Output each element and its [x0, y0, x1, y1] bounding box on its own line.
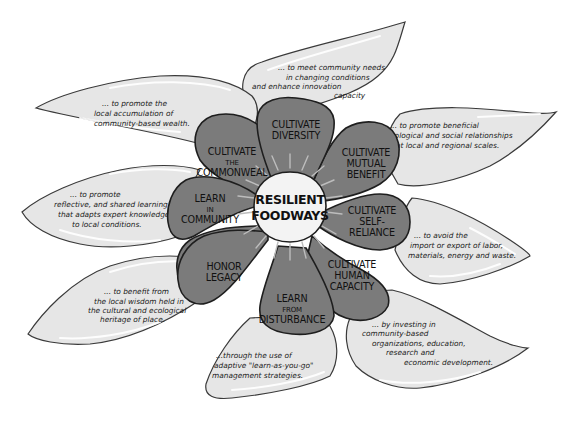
petal-disturbance-line-2: FROM — [282, 306, 302, 314]
petal-label-mutual-benefit: CULTIVATE MUTUAL BENEFIT — [342, 147, 390, 180]
petal-diversity-line-1: CULTIVATE — [272, 119, 320, 130]
petal-human-capacity-line-1: CULTIVATE — [328, 259, 376, 270]
leaf-legacy-line-4: heritage of place. — [100, 315, 165, 324]
leaf-legacy-line-2: the local wisdom held in — [94, 297, 184, 306]
petal-legacy-line-2: LEGACY — [206, 272, 243, 283]
petal-community-line-1: LEARN — [195, 193, 226, 204]
petal-label-legacy: HONOR LEGACY — [206, 261, 243, 283]
leaf-diversity-line-3: and enhance innovation — [252, 82, 342, 91]
leaf-human-capacity-line-4: research and — [386, 348, 435, 357]
leaf-disturbance-line-3: management strategies. — [212, 371, 303, 380]
center-circle: RESILIENT FOODWAYS — [251, 172, 329, 242]
leaf-human-capacity-line-5: economic development. — [404, 358, 493, 367]
petal-disturbance-line-1: LEARN — [277, 293, 308, 304]
petal-label-human-capacity: CULTIVATE HUMAN CAPACITY — [328, 259, 376, 292]
petal-commonweal-line-2: THE — [224, 159, 238, 167]
petal-commonweal-line-3: COMMONWEAL — [197, 167, 269, 178]
leaf-diversity-line-1: ... to meet community needs — [278, 63, 385, 72]
petal-commonweal-line-1: CULTIVATE — [208, 146, 256, 157]
petal-human-capacity-line-2: HUMAN — [334, 270, 369, 281]
petal-diversity-line-2: DIVERSITY — [272, 130, 321, 141]
petal-human-capacity-line-3: CAPACITY — [330, 281, 375, 292]
petal-legacy-line-1: HONOR — [206, 261, 242, 272]
petal-self-reliance-line-3: RELIANCE — [349, 227, 395, 238]
leaf-disturbance-line-2: adaptive "learn-as-you-go" — [214, 361, 314, 370]
petal-self-reliance-line-2: SELF- — [359, 216, 384, 227]
leaf-legacy-line-1: ... to benefit from — [104, 287, 169, 296]
leaf-disturbance-line-1: ...through the use of — [216, 351, 293, 360]
center-title-line-2: FOODWAYS — [251, 208, 329, 223]
leaf-commonweal-line-2: local accumulation of — [94, 109, 174, 118]
leaf-mutual-benefit-line-1: ... to promote beneficial — [390, 121, 480, 130]
petal-mutual-benefit-line-1: CULTIVATE — [342, 147, 390, 158]
leaf-commonweal-line-1: ... to promote the — [102, 99, 168, 108]
leaf-self-reliance-line-3: materials, energy and waste. — [408, 251, 516, 260]
petal-mutual-benefit-line-3: BENEFIT — [347, 169, 386, 180]
leaf-diversity-line-2: in changing conditions — [286, 73, 370, 82]
leaf-self-reliance-line-1: ... to avoid the — [414, 231, 468, 240]
leaf-community-line-4: to local conditions. — [72, 220, 142, 229]
leaf-human-capacity-line-1: ... by investing in — [372, 320, 436, 329]
petal-community-line-2: IN — [207, 206, 214, 214]
leaf-community-line-3: that adapts expert knowledge — [58, 210, 170, 219]
petal-community-line-3: COMMUNITY — [181, 214, 239, 225]
leaf-mutual-benefit-line-2: ecological and social relationships — [386, 131, 513, 140]
petal-disturbance-line-3: DISTURBANCE — [259, 314, 326, 325]
petal-label-diversity: CULTIVATE DIVERSITY — [272, 119, 321, 141]
leaf-legacy-line-3: the cultural and ecological — [88, 306, 187, 315]
leaf-community-line-1: ... to promote — [70, 190, 121, 199]
center-title-line-1: RESILIENT — [255, 192, 325, 207]
leaf-self-reliance-line-2: import or export of labor, — [410, 241, 503, 250]
leaf-community-line-2: reflective, and shared learning — [54, 200, 168, 209]
leaf-human-capacity-line-3: organizations, education, — [372, 339, 466, 348]
petal-mutual-benefit-line-2: MUTUAL — [347, 158, 387, 169]
leaf-human-capacity-line-2: community-based — [362, 329, 429, 338]
resilient-foodways-diagram: ... to meet community needs in changing … — [0, 0, 570, 423]
petal-self-reliance-line-1: CULTIVATE — [348, 205, 396, 216]
leaf-mutual-benefit-line-3: at local and regional scales. — [396, 141, 499, 150]
leaf-commonweal-line-3: community-based wealth. — [94, 119, 190, 128]
leaf-diversity-line-4: capacity — [334, 91, 366, 100]
